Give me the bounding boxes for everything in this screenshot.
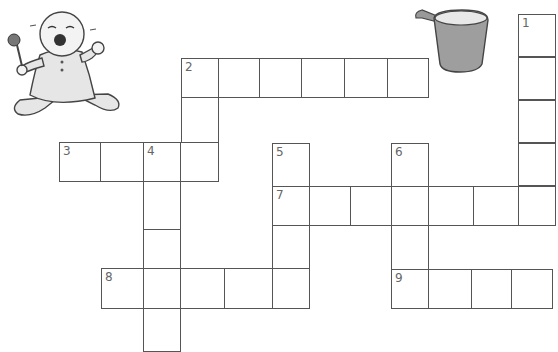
crossword-cell[interactable] [180, 142, 219, 182]
crying-baby-illustration [0, 0, 130, 125]
crossword-cell[interactable] [143, 307, 181, 352]
crossword-cell[interactable] [100, 142, 144, 182]
crossword-cell[interactable]: 6 [391, 143, 429, 187]
crossword-cell[interactable]: 8 [101, 268, 144, 309]
crossword-cell[interactable] [387, 58, 429, 98]
clue-number: 2 [185, 60, 193, 74]
crossword-cell[interactable] [473, 186, 519, 226]
crossword-cell[interactable] [143, 229, 181, 269]
crossword-cell[interactable]: 9 [391, 269, 429, 309]
crossword-cell[interactable] [518, 57, 556, 100]
crossword-cell[interactable] [428, 269, 472, 309]
crossword-cell[interactable]: 7 [272, 186, 310, 226]
crossword-cell[interactable] [301, 58, 345, 98]
crossword-cell[interactable] [391, 186, 429, 226]
crossword-cell[interactable]: 5 [272, 143, 310, 187]
crossword-cell[interactable] [272, 225, 310, 269]
crossword-cell[interactable] [344, 58, 388, 98]
crossword-cell[interactable]: 3 [59, 142, 101, 182]
crossword-cell[interactable] [181, 97, 219, 143]
crossword-cell[interactable] [428, 186, 474, 226]
crossword-cell[interactable] [518, 186, 556, 226]
clue-number: 7 [276, 188, 284, 202]
crossword-cell[interactable] [259, 58, 302, 98]
crossword-cell[interactable]: 2 [181, 58, 219, 98]
crossword-cell[interactable] [350, 186, 392, 226]
crossword-cell[interactable] [180, 268, 225, 309]
clue-number: 5 [276, 145, 284, 159]
crossword-cell[interactable]: 1 [518, 14, 556, 57]
crossword-cell[interactable] [518, 100, 556, 143]
clue-number: 9 [395, 271, 403, 285]
crossword-cell[interactable] [143, 181, 181, 230]
crossword-cell[interactable] [272, 268, 310, 309]
crossword-cell[interactable] [224, 268, 273, 309]
clue-number: 4 [147, 144, 155, 158]
crossword-cell[interactable]: 4 [143, 142, 181, 182]
clue-number: 1 [522, 16, 530, 30]
crossword-cell[interactable] [511, 269, 553, 309]
clue-number: 3 [63, 144, 71, 158]
crossword-cell[interactable] [218, 58, 260, 98]
clue-number: 6 [395, 145, 403, 159]
clue-number: 8 [105, 270, 113, 284]
crossword-cell[interactable] [309, 186, 351, 226]
crossword-cell[interactable] [391, 225, 429, 270]
crossword-cell[interactable] [518, 143, 556, 186]
crossword-cell[interactable] [471, 269, 512, 309]
crossword-cell[interactable] [143, 268, 181, 309]
